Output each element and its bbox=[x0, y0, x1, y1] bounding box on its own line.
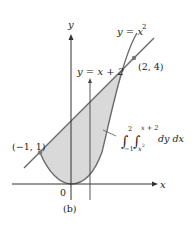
inner-upper-limit: x + 2 bbox=[141, 124, 158, 132]
differentials: dy dx bbox=[158, 133, 185, 144]
parabola-label: y = x bbox=[116, 26, 143, 37]
point-label-2-4: (2, 4) bbox=[138, 61, 164, 72]
point-label-neg1-1: (−1, 1) bbox=[12, 141, 46, 152]
figure-caption: (b) bbox=[63, 203, 77, 214]
outer-upper-limit: 2 bbox=[128, 125, 132, 133]
origin-label: 0 bbox=[60, 187, 66, 198]
y-axis-label: y bbox=[67, 19, 74, 30]
line-label: y = x + 2 bbox=[76, 66, 124, 77]
parabola-label-exponent: 2 bbox=[142, 23, 146, 31]
x-axis-label: x bbox=[160, 179, 166, 190]
x-axis-arrow-icon bbox=[152, 182, 158, 187]
y-axis-arrow-icon bbox=[69, 34, 74, 40]
point-2-4 bbox=[132, 56, 136, 60]
iterated-integral: ∫ 2 −1 ∫ x + 2 x 2 dy dx bbox=[121, 124, 185, 153]
region-diagram: y x 0 y = x 2 y = x + 2 (2, 4) (−1, 1) ∫… bbox=[0, 0, 195, 226]
strip-arrow-icon bbox=[88, 78, 92, 83]
inner-lower-exponent: 2 bbox=[142, 143, 145, 148]
